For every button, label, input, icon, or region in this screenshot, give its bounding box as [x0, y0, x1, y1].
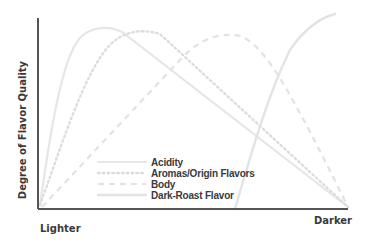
flavor-roast-chart: Degree of Flavor Quality Lighter Darker … [0, 0, 370, 243]
x-axis-left-label: Lighter [40, 223, 81, 234]
legend: Acidity Aromas/Origin Flavors Body Dark-… [98, 157, 255, 201]
legend-label-aromas: Aromas/Origin Flavors [151, 168, 255, 179]
series-aromas-line [40, 31, 348, 207]
x-axis-right-label: Darker [314, 215, 352, 226]
y-axis-label: Degree of Flavor Quality [17, 60, 28, 199]
series-body-line [42, 35, 348, 207]
legend-label-dark-roast: Dark-Roast Flavor [151, 190, 234, 201]
plot-area [40, 14, 348, 209]
legend-label-acidity: Acidity [151, 157, 184, 168]
legend-label-body: Body [151, 179, 176, 190]
series-acidity-line [40, 28, 348, 207]
